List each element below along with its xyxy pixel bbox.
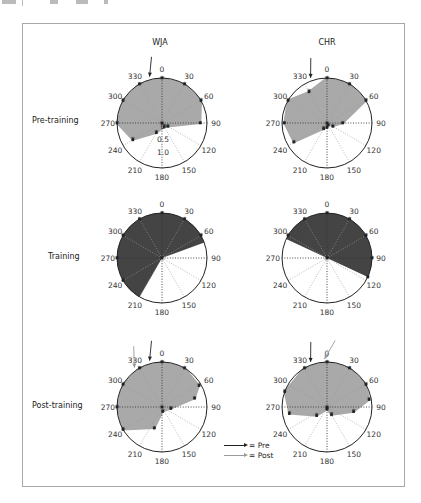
svg-text:1.0: 1.0 — [157, 148, 169, 157]
svg-text:120: 120 — [202, 281, 217, 290]
pre-arrow-icon — [224, 445, 246, 446]
svg-text:210: 210 — [128, 301, 143, 310]
polar-panel-wja-post-training: 0306090120150180210240270300330*********… — [101, 341, 221, 466]
svg-text:150: 150 — [347, 450, 362, 459]
svg-text:90: 90 — [211, 254, 221, 263]
legend-post-label: = Post — [249, 451, 273, 460]
svg-text:60: 60 — [369, 376, 379, 385]
svg-text:210: 210 — [128, 166, 143, 175]
svg-text:90: 90 — [376, 403, 386, 412]
svg-text:60: 60 — [204, 92, 214, 101]
svg-text:150: 150 — [182, 301, 197, 310]
polar-panel-chr-pre-training: 0306090120150180210240270300330*********… — [266, 58, 386, 182]
svg-text:180: 180 — [155, 457, 170, 466]
svg-text:180: 180 — [320, 308, 335, 317]
svg-text:150: 150 — [182, 450, 197, 459]
svg-text:210: 210 — [293, 166, 308, 175]
svg-text:240: 240 — [273, 281, 288, 290]
svg-text:120: 120 — [202, 146, 217, 155]
post-arrow-icon — [224, 455, 246, 456]
pre-arrow-icon — [148, 72, 152, 76]
svg-text:90: 90 — [376, 254, 386, 263]
svg-text:150: 150 — [347, 166, 362, 175]
legend-pre-label: = Pre — [249, 441, 270, 450]
svg-text:120: 120 — [202, 430, 217, 439]
pre-arrow-icon — [148, 356, 152, 360]
svg-text:0: 0 — [160, 200, 165, 209]
svg-text:60: 60 — [369, 227, 379, 236]
svg-text:0.5: 0.5 — [157, 135, 169, 144]
svg-text:180: 180 — [155, 173, 170, 182]
svg-text:0: 0 — [325, 200, 330, 209]
svg-text:270: 270 — [101, 119, 116, 128]
polar-panel-wja-training: 0306090120150180210240270300330******* — [101, 200, 221, 317]
svg-text:0: 0 — [161, 122, 166, 131]
post-arrow-icon — [132, 364, 136, 368]
svg-text:270: 270 — [101, 403, 116, 412]
svg-text:270: 270 — [266, 254, 281, 263]
polar-panel-chr-training: 0306090120150180210240270300330******* — [266, 200, 386, 317]
svg-text:240: 240 — [108, 146, 123, 155]
svg-text:270: 270 — [266, 119, 281, 128]
svg-text:90: 90 — [211, 119, 221, 128]
pre-arrow-icon — [309, 358, 313, 362]
pre-arrow-icon — [309, 74, 313, 78]
svg-text:60: 60 — [369, 92, 379, 101]
polar-panel-wja-pre-training: 0306090120150180210240270300330*********… — [101, 57, 221, 182]
svg-text:270: 270 — [101, 254, 116, 263]
polar-plots: 0306090120150180210240270300330*********… — [0, 0, 421, 503]
svg-text:240: 240 — [273, 430, 288, 439]
svg-text:0: 0 — [325, 65, 330, 74]
svg-text:60: 60 — [204, 227, 214, 236]
svg-text:150: 150 — [182, 166, 197, 175]
legend-pre: = Pre — [224, 440, 273, 450]
svg-text:210: 210 — [128, 450, 143, 459]
svg-text:120: 120 — [367, 281, 382, 290]
legend-post: = Post — [224, 450, 273, 460]
legend: = Pre = Post — [224, 440, 273, 460]
svg-text:180: 180 — [320, 173, 335, 182]
svg-text:210: 210 — [293, 301, 308, 310]
svg-text:300: 300 — [273, 376, 288, 385]
svg-text:90: 90 — [211, 403, 221, 412]
svg-text:180: 180 — [155, 308, 170, 317]
svg-text:0: 0 — [160, 65, 165, 74]
svg-text:180: 180 — [320, 457, 335, 466]
svg-text:120: 120 — [367, 430, 382, 439]
svg-text:60: 60 — [204, 376, 214, 385]
svg-text:240: 240 — [273, 146, 288, 155]
svg-text:210: 210 — [293, 450, 308, 459]
svg-text:270: 270 — [266, 403, 281, 412]
svg-text:120: 120 — [367, 146, 382, 155]
svg-text:0: 0 — [160, 349, 165, 358]
svg-text:90: 90 — [376, 119, 386, 128]
svg-text:150: 150 — [347, 301, 362, 310]
svg-text:330: 330 — [293, 72, 308, 81]
polar-panel-chr-post-training: 0306090120150180210240270300330*********… — [266, 340, 386, 466]
